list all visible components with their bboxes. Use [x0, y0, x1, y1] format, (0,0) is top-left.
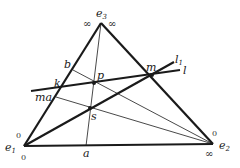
point-s-label: s	[91, 110, 97, 123]
vertex-e1-bottom-mark: 0	[21, 153, 26, 162]
vertex-e3-right-mark: ∞	[108, 18, 116, 29]
vertex-e3-label: e3	[96, 7, 108, 21]
line-ma-e2	[56, 97, 213, 144]
line-l1-label: l1	[175, 53, 183, 67]
side-e1-e3	[24, 23, 101, 146]
vertex-e1-top-mark: 0	[16, 131, 21, 140]
vertex-e3-left-mark: ∞	[83, 18, 91, 29]
point-k-label: k	[54, 77, 61, 90]
vertex-e2-bottom-mark: ∞	[205, 148, 213, 159]
projective-triangle-diagram: e3 ∞ ∞ 0 e1 0 0 e2 ∞ b k ma p s m a l1 l	[0, 0, 240, 168]
side-e1-e2	[24, 144, 213, 146]
point-p-label: p	[97, 69, 104, 82]
point-a-label: a	[83, 147, 90, 160]
vertex-e1-label: e1	[5, 141, 16, 155]
vertex-e2-label: e2	[219, 139, 231, 153]
point-b-label: b	[64, 58, 71, 71]
point-m-label: m	[146, 61, 156, 74]
point-p-dot	[92, 81, 96, 85]
point-ma-label: ma	[35, 91, 52, 104]
vertex-e2-top-mark: 0	[212, 129, 217, 138]
side-e3-e2	[101, 23, 213, 144]
line-l-label: l	[183, 64, 187, 77]
